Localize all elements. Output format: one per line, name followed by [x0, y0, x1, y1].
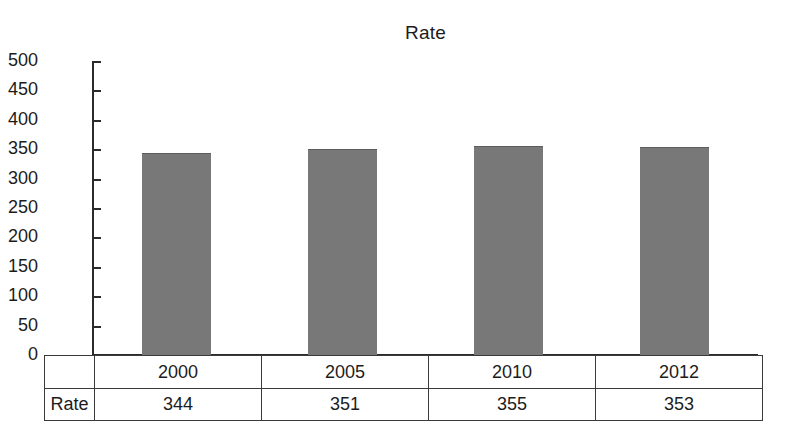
bar [640, 147, 709, 355]
y-axis-tick-label: 50 [0, 315, 38, 336]
chart-figure: Rate 500450400350300250200150100500 2000… [0, 0, 785, 446]
y-axis-tick-label: 0 [0, 344, 38, 365]
y-axis-tick-mark [92, 326, 101, 328]
y-axis-tick-mark [92, 120, 101, 122]
table-row-header: Rate [45, 389, 95, 421]
y-axis-tick-mark [92, 267, 101, 269]
bar [474, 146, 543, 355]
table-header-cell: 2012 [596, 356, 763, 389]
table-row-values: Rate 344351355353 [45, 389, 763, 421]
y-axis-tick-label: 500 [0, 50, 38, 71]
y-axis-tick-label: 200 [0, 226, 38, 247]
table-value-cell: 351 [262, 389, 429, 421]
chart-title-text: Rate [405, 22, 446, 43]
y-axis-tick-label: 100 [0, 285, 38, 306]
table-row-categories: 2000200520102012 [45, 356, 763, 389]
chart-title: Rate [0, 22, 785, 44]
table-header-cell: 2005 [262, 356, 429, 389]
table-header-cell: 2010 [429, 356, 596, 389]
bar [142, 153, 211, 355]
data-table: 2000200520102012 Rate 344351355353 [44, 355, 763, 421]
y-axis-tick-mark [92, 237, 101, 239]
y-axis-tick-mark [92, 149, 101, 151]
y-axis-tick-mark [92, 208, 101, 210]
y-axis-tick-label: 350 [0, 138, 38, 159]
bar [308, 149, 377, 355]
y-axis-tick-label: 150 [0, 256, 38, 277]
table-value-cell: 355 [429, 389, 596, 421]
y-axis-tick-label: 250 [0, 197, 38, 218]
y-axis-tick-mark [92, 179, 101, 181]
table-header-cell: 2000 [95, 356, 262, 389]
table-corner-cell [45, 356, 95, 389]
y-axis-tick-mark [92, 90, 101, 92]
y-axis-tick-label: 400 [0, 109, 38, 130]
y-axis-tick-mark [92, 296, 101, 298]
y-axis-tick-label: 300 [0, 168, 38, 189]
y-axis-tick-mark [92, 61, 101, 63]
y-axis-tick-label: 450 [0, 79, 38, 100]
table-value-cell: 344 [95, 389, 262, 421]
table-value-cell: 353 [596, 389, 763, 421]
